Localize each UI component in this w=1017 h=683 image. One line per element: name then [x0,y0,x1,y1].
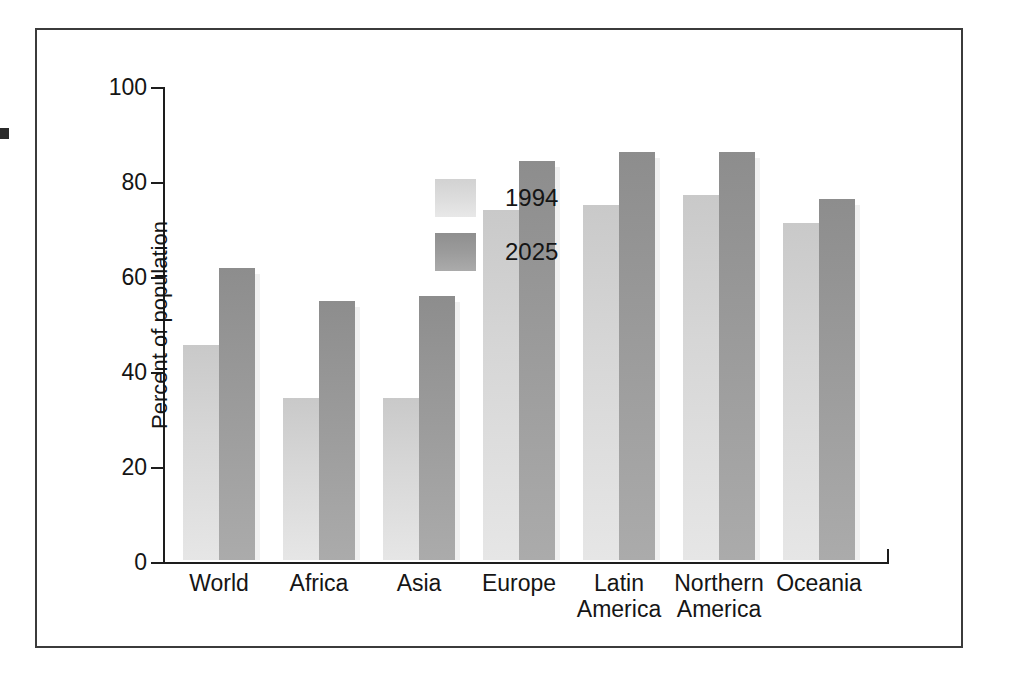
bar-2025-northern-america [719,152,755,561]
y-tick-mark [151,87,163,89]
chart-legend: 1994 2025 [435,177,558,285]
x-axis-label-oceania: Oceania [776,571,862,597]
legend-item-2025: 2025 [435,231,558,273]
y-tick-mark [151,562,163,564]
x-axis-label-africa: Africa [290,571,349,597]
legend-label-1994: 1994 [505,186,558,210]
y-tick-label: 20 [121,456,147,479]
x-axis-end-cap [887,549,889,563]
x-axis-label-world: World [189,571,249,597]
bar-2025-africa [319,301,355,560]
y-tick-label: 80 [121,171,147,194]
x-axis-label-northern-america: Northern America [674,571,763,623]
legend-swatch-2025 [435,233,476,271]
x-axis-line [163,562,889,564]
y-tick-mark [151,182,163,184]
y-axis-title: Percent of population [147,221,173,429]
bar-1994-asia [383,398,419,560]
bar-1994-africa [283,398,319,560]
bar-2025-latin-america [619,152,655,561]
chart-plot-area: 100 80 60 40 20 0 Percent of population … [163,87,887,562]
bar-1994-world [183,345,219,560]
figure-frame: 100 80 60 40 20 0 Percent of population … [35,28,963,648]
y-tick-label: 40 [121,361,147,384]
legend-label-2025: 2025 [505,240,558,264]
bar-2025-oceania [819,199,855,560]
scan-artifact-mark [0,128,9,139]
bar-2025-asia [419,296,455,560]
bar-1994-oceania [783,223,819,560]
x-axis-label-latin-america: Latin America [577,571,661,623]
x-axis-label-europe: Europe [482,571,556,597]
y-tick-label: 100 [109,76,147,99]
y-tick-label: 60 [121,266,147,289]
bar-1994-northern-america [683,195,719,560]
y-tick-label: 0 [134,551,147,574]
bar-1994-latin-america [583,205,619,560]
legend-item-1994: 1994 [435,177,558,219]
legend-swatch-1994 [435,179,476,217]
y-tick-mark [151,467,163,469]
bar-2025-world [219,268,255,560]
x-axis-label-asia: Asia [397,571,442,597]
